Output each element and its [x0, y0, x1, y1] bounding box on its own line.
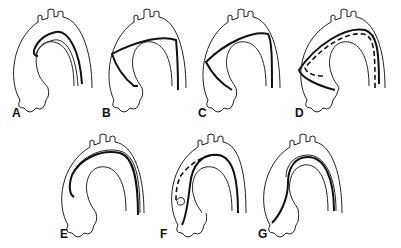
panel-c: C [198, 0, 298, 122]
panel-d: D [295, 0, 401, 122]
panel-label-c: C [198, 106, 207, 120]
panel-label-a: A [12, 106, 21, 120]
panel-label-d: D [295, 106, 304, 120]
panel-b: B [100, 0, 200, 122]
panel-g: G [250, 125, 350, 248]
aortic-arch-diagram-b [100, 0, 200, 122]
panel-label-b: B [102, 106, 111, 120]
panel-label-e: E [60, 227, 68, 241]
panel-label-f: F [160, 227, 167, 241]
panel-f: F [158, 125, 258, 248]
aortic-arch-diagram-e [60, 125, 160, 248]
aortic-arch-diagram-a [0, 0, 100, 122]
panel-label-g: G [258, 227, 267, 241]
aortic-arch-diagram-c [198, 0, 298, 122]
aortic-arch-diagram-f [158, 125, 258, 248]
panel-a: A [0, 0, 100, 122]
aortic-arch-diagram-d [295, 0, 401, 122]
panel-e: E [60, 125, 160, 248]
